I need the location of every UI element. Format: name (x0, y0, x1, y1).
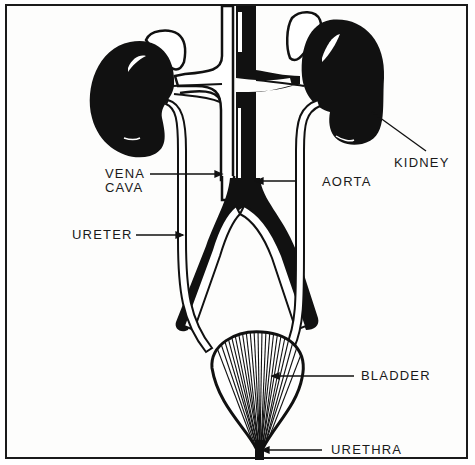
right-kidney (302, 20, 384, 145)
label-ureter: URETER (72, 228, 133, 242)
label-vena-cava-line2: CAVA (105, 181, 145, 195)
left-kidney (90, 41, 174, 157)
bladder (212, 330, 303, 448)
label-urethra: URETHRA (331, 443, 402, 457)
label-aorta: AORTA (322, 175, 372, 189)
label-kidney: KIDNEY (394, 156, 450, 170)
label-bladder: BLADDER (361, 369, 431, 383)
left-ureter (166, 100, 212, 352)
label-vena-cava: VENA CAVA (105, 167, 145, 195)
label-vena-cava-line1: VENA (105, 167, 145, 181)
